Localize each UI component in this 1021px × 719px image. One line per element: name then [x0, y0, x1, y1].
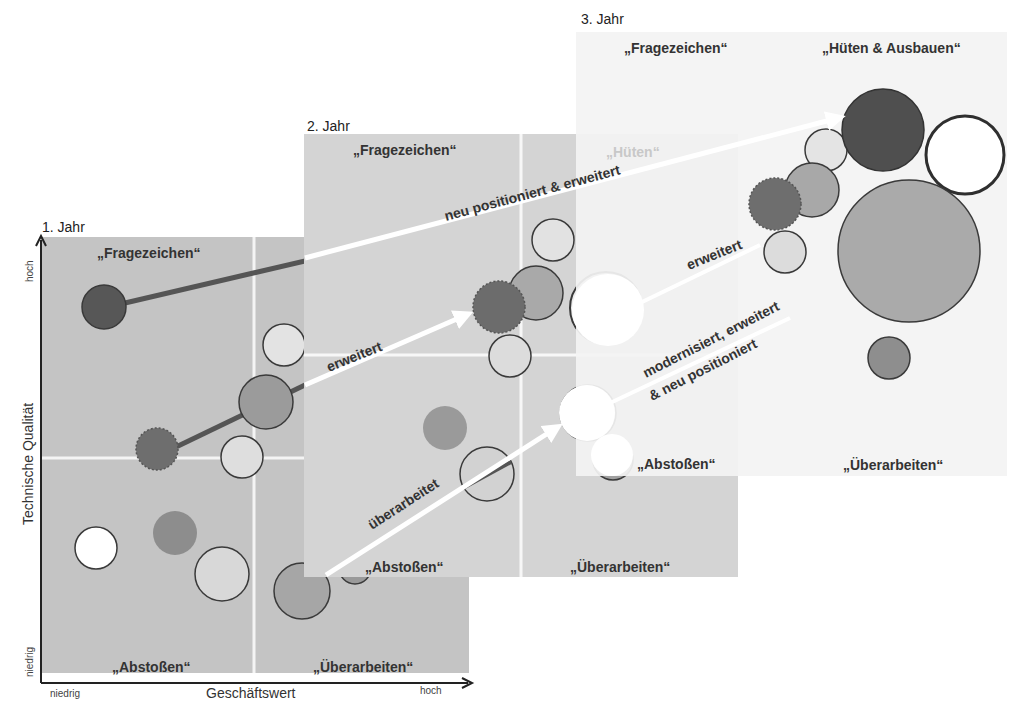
panel-year-3: 3. Jahr „Fragezeichen“ „Hüten & Ausbauen… [559, 11, 1007, 476]
bubble [423, 406, 467, 450]
faded-bubble [572, 274, 644, 346]
x-axis-title: Geschäftswert [206, 685, 296, 701]
panel-1-title: 1. Jahr [42, 219, 85, 235]
bubble [75, 527, 117, 569]
faded-bubble [559, 385, 615, 441]
bubble [489, 335, 531, 377]
bubble [263, 324, 305, 366]
y-axis-low-label: niedrig [24, 647, 35, 677]
panel-3-quadrant-abstossen: „Abstoßen“ [637, 456, 716, 472]
panel-1-quadrant-fragezeichen: „Fragezeichen“ [97, 245, 200, 261]
bubble [749, 178, 801, 230]
bubble [838, 180, 980, 322]
x-axis-low-label: niedrig [50, 688, 80, 699]
panel-1-quadrant-abstossen: „Abstoßen“ [112, 659, 191, 675]
panel-2-quadrant-ueberarbeiten: „Überarbeiten“ [570, 559, 670, 575]
panel-3-quadrant-hueten-ausbauen: „Hüten & Ausbauen“ [822, 40, 961, 56]
bubble [239, 375, 293, 429]
bubble [221, 436, 263, 478]
bubble [153, 511, 197, 555]
panel-2-quadrant-abstossen: „Abstoßen“ [365, 559, 444, 575]
x-axis-high-label: hoch [420, 685, 442, 696]
bubble [764, 231, 806, 273]
bubble [473, 281, 525, 333]
panel-1-quadrant-ueberarbeiten: „Überarbeiten“ [313, 659, 413, 675]
bubble [532, 219, 574, 261]
bubble [82, 285, 126, 329]
panel-3-title: 3. Jahr [581, 11, 624, 27]
bubble [842, 89, 924, 171]
faded-bubble [591, 434, 633, 476]
panel-2-quadrant-hueten: „Hüten“ [606, 144, 660, 160]
panel-3-quadrant-ueberarbeiten: „Überarbeiten“ [843, 457, 943, 473]
bubble [868, 337, 910, 379]
bubble [136, 428, 178, 470]
bubble [926, 116, 1004, 194]
panel-2-quadrant-fragezeichen: „Fragezeichen“ [353, 142, 456, 158]
panel-3-quadrant-fragezeichen: „Fragezeichen“ [624, 40, 727, 56]
panel-2-title: 2. Jahr [307, 118, 350, 134]
bubble [195, 547, 249, 601]
y-axis-title: Technische Qualität [20, 403, 36, 525]
y-axis-high-label: hoch [24, 260, 35, 282]
portfolio-evolution-diagram: 1. Jahr „Fragezeichen“ „Hüten“ „Abstoßen… [0, 0, 1021, 719]
